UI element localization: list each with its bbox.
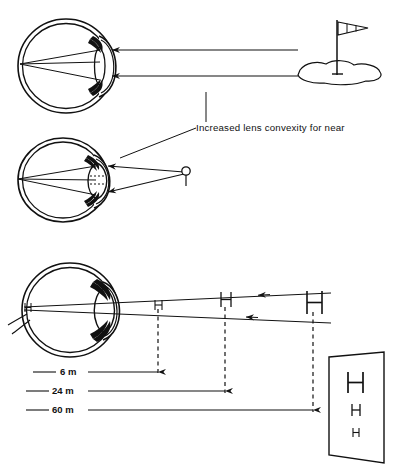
panel-visual-angle [8, 263, 384, 463]
label-increased-lens-convexity: Increased lens convexity for near [196, 122, 345, 133]
eye-chart-board [329, 352, 384, 463]
distance-label-60m: 60 m [52, 404, 74, 415]
pin-object [182, 167, 190, 186]
distance-label-6m: 6 m [60, 366, 76, 377]
flag-on-island [298, 20, 381, 85]
island-shape [298, 61, 381, 85]
diagram-canvas [0, 0, 396, 474]
letter-H-24m [221, 292, 231, 307]
panel-distant-vision [18, 19, 381, 113]
eyeball-distant [18, 19, 116, 113]
panel-near-vision [18, 128, 196, 222]
figure-root: Increased lens convexity for near 6 m 24… [0, 0, 396, 474]
dash-drop-lines [158, 307, 313, 412]
rays-divergent-near [108, 166, 184, 192]
distance-label-24m: 24 m [52, 385, 74, 396]
letter-H-6m [155, 300, 162, 310]
rays-parallel-distant [112, 50, 298, 76]
caption-leader-diagonal [120, 128, 196, 158]
pennant-flag [338, 22, 368, 35]
